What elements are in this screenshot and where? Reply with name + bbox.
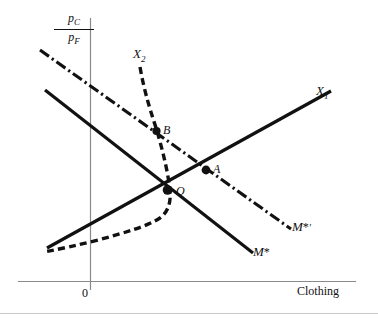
y-axis-numerator: pC	[54, 12, 94, 28]
curve-label-m-star-prime: M*′	[292, 220, 311, 233]
point-marker-b	[152, 127, 160, 135]
point-marker-a	[202, 166, 211, 175]
curve-m-star	[45, 90, 253, 253]
point-marker-q	[163, 185, 173, 195]
diagram-canvas	[0, 0, 378, 318]
curve-x2	[44, 67, 170, 252]
curve-label-x1: X1	[316, 84, 328, 101]
y-axis-denominator: pF	[54, 31, 94, 47]
origin-label: 0	[82, 286, 88, 301]
curve-m-star-prime	[40, 50, 291, 229]
x-axis-title: Clothing	[297, 284, 339, 299]
figure-container: pC pF X2 X1 M*′ M* B A Q 0 Clothing	[0, 0, 378, 318]
curve-x1	[47, 91, 331, 248]
curve-label-m-star: M*	[253, 245, 270, 258]
point-label-q: Q	[176, 185, 185, 197]
y-axis-label: pC pF	[54, 12, 94, 46]
curve-label-x2: X2	[133, 47, 145, 64]
point-label-a: A	[213, 163, 220, 175]
point-label-b: B	[163, 124, 170, 136]
bottom-rule	[0, 313, 378, 314]
